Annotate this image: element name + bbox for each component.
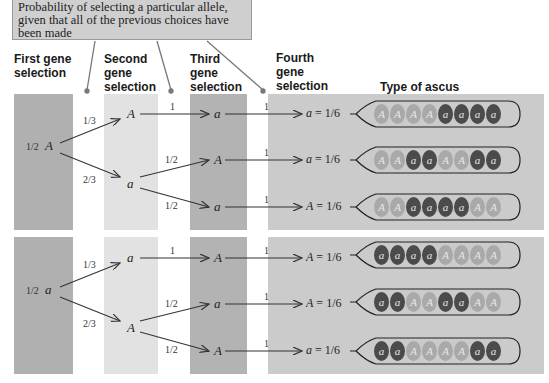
first-allele: a <box>45 282 52 298</box>
spore: a <box>406 197 421 217</box>
spore: A <box>422 104 437 124</box>
spore: a <box>438 104 453 124</box>
second-prob: 2/3 <box>83 174 96 185</box>
third-allele: A <box>214 152 222 168</box>
ascus: AAAAaaaa <box>358 100 520 128</box>
second-prob: 2/3 <box>83 318 96 329</box>
fourth-prob: 1 <box>264 194 269 205</box>
fourth-prob: 1 <box>264 291 269 302</box>
ascus: aaAAAAaa <box>358 337 520 365</box>
spore: A <box>470 245 485 265</box>
result-row: a = 1/6 <box>306 106 340 121</box>
second-allele: a <box>127 176 134 192</box>
result-prob: 1/6 <box>325 343 340 357</box>
spore: A <box>454 245 469 265</box>
result-prob: 1/6 <box>325 106 340 120</box>
spore-row: aaaaAAAA <box>374 245 501 265</box>
spore: a <box>486 104 501 124</box>
result-row: a = 1/6 <box>306 343 340 358</box>
spore: a <box>470 341 485 361</box>
ascus: aaAAaaAA <box>358 288 520 316</box>
fourth-allele: a <box>306 343 312 357</box>
fourth-allele: A <box>306 199 313 213</box>
spore: A <box>390 197 405 217</box>
fourth-allele: A <box>306 296 313 310</box>
fourth-allele: A <box>306 250 313 264</box>
spore: A <box>390 104 405 124</box>
second-allele: A <box>127 320 135 336</box>
third-allele: A <box>214 343 222 359</box>
first-prob: 1/2 <box>26 141 39 152</box>
third-prob: 1 <box>170 101 175 112</box>
third-allele: A <box>214 250 222 266</box>
spore: A <box>374 150 389 170</box>
spore: A <box>470 197 485 217</box>
result-prob: 1/6 <box>326 199 341 213</box>
third-allele: a <box>214 106 221 122</box>
spore: a <box>374 245 389 265</box>
spore: a <box>422 197 437 217</box>
spore: a <box>422 150 437 170</box>
spore: a <box>438 292 453 312</box>
spore: a <box>486 341 501 361</box>
spore: a <box>406 245 421 265</box>
spore: A <box>374 197 389 217</box>
result-row: A = 1/6 <box>306 199 341 214</box>
spore: A <box>406 292 421 312</box>
first-prob: 1/2 <box>26 285 39 296</box>
spore: A <box>422 341 437 361</box>
second-allele: A <box>127 106 135 122</box>
spore: A <box>438 245 453 265</box>
spore: a <box>374 341 389 361</box>
ascus: aaaaAAAA <box>358 241 520 269</box>
spore-row: aaAAaaAA <box>374 292 501 312</box>
fourth-prob: 1 <box>264 338 269 349</box>
result-prob: 1/6 <box>326 250 341 264</box>
spore: a <box>374 292 389 312</box>
spore: A <box>422 292 437 312</box>
spore: a <box>438 197 453 217</box>
spore-row: AAaaaaAA <box>374 197 501 217</box>
spore-row: aaAAAAaa <box>374 341 501 361</box>
third-prob: 1/2 <box>165 344 178 355</box>
spore-row: AAaaAAaa <box>374 150 501 170</box>
fourth-prob: 1 <box>264 147 269 158</box>
second-allele: a <box>127 250 134 266</box>
result-row: A = 1/6 <box>306 250 341 265</box>
spore: a <box>454 104 469 124</box>
spore: A <box>486 197 501 217</box>
spore: A <box>438 341 453 361</box>
leader-lines <box>85 41 265 93</box>
fourth-allele: a <box>306 152 312 166</box>
second-prob: 1/3 <box>83 115 96 126</box>
spore: a <box>454 197 469 217</box>
spore: A <box>454 341 469 361</box>
spore: A <box>470 292 485 312</box>
result-row: a = 1/6 <box>306 152 340 167</box>
spore: A <box>486 245 501 265</box>
fourth-allele: a <box>306 106 312 120</box>
second-prob: 1/3 <box>83 259 96 270</box>
result-prob: 1/6 <box>325 152 340 166</box>
third-prob: 1 <box>170 245 175 256</box>
spore: A <box>438 150 453 170</box>
spore: A <box>406 341 421 361</box>
spore: A <box>374 104 389 124</box>
spore-row: AAAAaaaa <box>374 104 501 124</box>
spore: A <box>486 292 501 312</box>
third-allele: a <box>214 199 221 215</box>
spore: a <box>422 245 437 265</box>
third-prob: 1/2 <box>165 298 178 309</box>
spore: A <box>390 150 405 170</box>
spore: a <box>454 292 469 312</box>
spore: a <box>486 150 501 170</box>
spore: a <box>470 150 485 170</box>
spore: a <box>390 341 405 361</box>
third-prob: 1/2 <box>165 200 178 211</box>
result-row: A = 1/6 <box>306 296 341 311</box>
spore: A <box>406 104 421 124</box>
result-prob: 1/6 <box>326 296 341 310</box>
ascus: AAaaaaAA <box>358 193 520 221</box>
fourth-prob: 1 <box>264 245 269 256</box>
spore: a <box>390 292 405 312</box>
